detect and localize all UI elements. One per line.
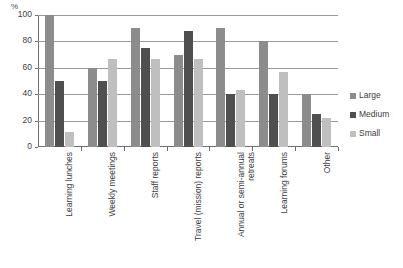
bar bbox=[216, 28, 225, 147]
bar-group bbox=[174, 15, 203, 147]
bar bbox=[45, 15, 54, 147]
x-axis-category-label: Learning forums bbox=[279, 152, 289, 248]
x-axis-category-labels: Learning lunchesWeekly meetingsStaff rep… bbox=[38, 152, 338, 252]
bar bbox=[108, 59, 117, 147]
bar bbox=[194, 59, 203, 147]
y-axis-tick-mark bbox=[35, 121, 38, 122]
x-axis-tick-mark bbox=[252, 147, 253, 151]
x-axis-category-label: Weekly meetings bbox=[107, 152, 117, 248]
legend: LargeMediumSmall bbox=[350, 86, 403, 143]
y-axis-tick-label: 100 bbox=[0, 10, 32, 19]
x-axis-tick-mark bbox=[209, 147, 210, 151]
legend-item: Small bbox=[350, 124, 403, 143]
legend-swatch-icon bbox=[350, 93, 356, 99]
y-axis-tick-label: 80 bbox=[0, 36, 32, 45]
legend-item: Large bbox=[350, 86, 403, 105]
bar bbox=[131, 28, 140, 147]
bar bbox=[151, 59, 160, 147]
bar-group bbox=[302, 15, 331, 147]
bar bbox=[98, 81, 107, 147]
x-axis-category-label: Other bbox=[322, 152, 332, 248]
y-axis-tick-label: 60 bbox=[0, 63, 32, 72]
y-axis-tick-label: 0 bbox=[0, 142, 32, 151]
y-axis-tick-mark bbox=[35, 147, 38, 148]
legend-label: Medium bbox=[359, 110, 389, 119]
y-axis-tick-mark bbox=[35, 68, 38, 69]
x-axis-category-label: Learning lunches bbox=[64, 152, 74, 248]
bar-chart-figure: % 020406080100 Learning lunchesWeekly me… bbox=[0, 0, 403, 268]
bar bbox=[269, 94, 278, 147]
bar bbox=[259, 41, 268, 147]
x-axis-category-label: Annual or semi-annual retreats bbox=[236, 152, 256, 248]
y-axis-tick-mark bbox=[35, 94, 38, 95]
y-axis-tick-label: 20 bbox=[0, 116, 32, 125]
bar bbox=[279, 72, 288, 147]
bar-group bbox=[259, 15, 288, 147]
x-axis-tick-mark bbox=[338, 147, 339, 151]
x-axis-tick-mark bbox=[167, 147, 168, 151]
legend-label: Small bbox=[359, 129, 380, 138]
y-axis-tick-mark bbox=[35, 41, 38, 42]
bar bbox=[312, 114, 321, 147]
legend-label: Large bbox=[359, 91, 381, 100]
y-axis-tick-label: 40 bbox=[0, 89, 32, 98]
bar bbox=[65, 132, 74, 147]
x-axis-category-label: Staff reports bbox=[150, 152, 160, 248]
legend-swatch-icon bbox=[350, 112, 356, 118]
bar bbox=[302, 94, 311, 147]
x-axis-tick-mark bbox=[295, 147, 296, 151]
legend-swatch-icon bbox=[350, 131, 356, 137]
legend-item: Medium bbox=[350, 105, 403, 124]
bar-group bbox=[45, 15, 74, 147]
bar bbox=[226, 94, 235, 147]
bar bbox=[174, 55, 183, 147]
bar-group bbox=[88, 15, 117, 147]
bar bbox=[55, 81, 64, 147]
bar-group bbox=[216, 15, 245, 147]
bar bbox=[141, 48, 150, 147]
y-axis-tick-mark bbox=[35, 15, 38, 16]
bar bbox=[184, 31, 193, 147]
x-axis-tick-mark bbox=[124, 147, 125, 151]
x-axis-category-label: Travel (mission) reports bbox=[193, 152, 203, 248]
bar bbox=[88, 68, 97, 147]
plot-area bbox=[38, 15, 338, 147]
bar bbox=[322, 118, 331, 147]
bar bbox=[236, 90, 245, 147]
bar-group bbox=[131, 15, 160, 147]
bars-layer bbox=[38, 15, 338, 147]
x-axis-tick-mark bbox=[81, 147, 82, 151]
